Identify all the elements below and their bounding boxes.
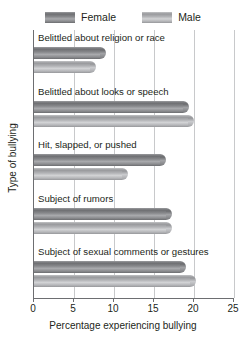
bar-cap (100, 47, 106, 59)
legend-label-male: Male (178, 12, 201, 23)
bar-male (34, 222, 172, 234)
bar-body (34, 275, 190, 287)
bar-cap (90, 61, 96, 73)
bar-cap (190, 275, 196, 287)
category-label: Belittled about religion or race (38, 32, 165, 44)
category-label: Belittled about looks or speech (38, 86, 169, 98)
x-tick-label: 15 (147, 303, 158, 315)
bar-body (34, 47, 100, 59)
x-tick (193, 298, 194, 302)
bar-cap (188, 115, 194, 127)
category-label: Subject of sexual comments or gestures (38, 246, 209, 258)
category-label: Hit, slapped, or pushed (38, 139, 137, 151)
legend-item-male: Male (142, 12, 201, 23)
x-tick (153, 298, 154, 302)
bar-body (34, 101, 183, 113)
bar-group: Subject of sexual comments or gestures (34, 244, 234, 298)
bar-female (34, 208, 172, 220)
bar-female (34, 261, 186, 273)
bar-cap (122, 168, 128, 180)
bar-cap (160, 154, 166, 166)
bar-male (34, 168, 128, 180)
x-axis-title: Percentage experiencing bullying (0, 320, 246, 332)
x-tick-label: 10 (107, 303, 118, 315)
x-axis-line (33, 298, 234, 299)
bar-male (34, 275, 196, 287)
legend-swatch-female-icon (45, 12, 75, 23)
x-tick (73, 298, 74, 302)
x-tick-label: 5 (70, 303, 76, 315)
bar-male (34, 61, 96, 73)
bar-cap (166, 222, 172, 234)
bar-female (34, 154, 166, 166)
bar-cap (166, 208, 172, 220)
bar-body (34, 222, 166, 234)
x-tick-label: 0 (30, 303, 36, 315)
bar-body (34, 261, 180, 273)
gridline (234, 30, 235, 298)
bar-group: Hit, slapped, or pushed (34, 137, 234, 191)
bar-body (34, 154, 160, 166)
bar-female (34, 101, 189, 113)
bar-group: Belittled about looks or speech (34, 84, 234, 138)
bar-cap (180, 261, 186, 273)
x-tick-label: 20 (187, 303, 198, 315)
bar-body (34, 168, 122, 180)
x-tick (33, 298, 34, 302)
bar-group: Subject of rumors (34, 191, 234, 245)
x-tick (233, 298, 234, 302)
bar-body (34, 61, 90, 73)
bar-male (34, 115, 194, 127)
legend-label-female: Female (81, 12, 116, 23)
bar-group: Belittled about religion or race (34, 30, 234, 84)
bar-body (34, 115, 188, 127)
legend-item-female: Female (45, 12, 116, 23)
bar-body (34, 208, 166, 220)
y-axis-title: Type of bullying (7, 93, 19, 223)
x-tick (113, 298, 114, 302)
plot-area: Belittled about religion or raceBelittle… (33, 30, 234, 298)
legend-swatch-male-icon (142, 12, 172, 23)
category-label: Subject of rumors (38, 193, 113, 205)
x-tick-label: 25 (227, 303, 238, 315)
bar-chart: Female Male Belittled about religion or … (0, 0, 246, 346)
bar-cap (183, 101, 189, 113)
chart-legend: Female Male (0, 8, 246, 26)
bar-female (34, 47, 106, 59)
